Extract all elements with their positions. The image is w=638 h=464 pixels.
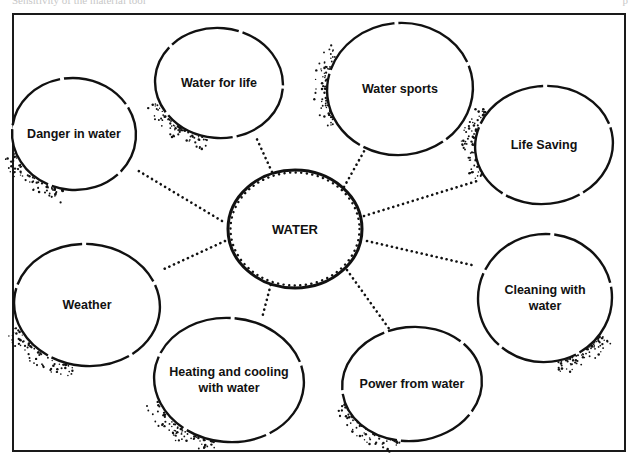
stipple-dot: [366, 442, 368, 444]
stipple-dot: [320, 107, 322, 109]
stipple-dot: [473, 133, 475, 135]
node-label: Weather: [62, 298, 111, 312]
node-life-saving: Life Saving: [469, 79, 619, 211]
stipple-dot: [324, 75, 326, 77]
node-label: Water sports: [362, 82, 438, 96]
node-label: Power from water: [360, 377, 465, 391]
water-mind-map: Water for lifeWater sportsDanger in wate…: [0, 0, 638, 464]
stipple-dot: [175, 432, 177, 434]
stipple-dot: [22, 334, 23, 335]
stipple-dot: [185, 139, 187, 141]
stipple-dot: [324, 77, 326, 79]
stipple-dot: [382, 446, 384, 448]
stipple-dot: [29, 357, 31, 359]
stipple-dot: [47, 357, 49, 359]
stipple-dot: [570, 364, 572, 366]
stipple-dot: [474, 123, 476, 125]
stipple-dot: [470, 152, 472, 154]
stipple-dot: [152, 413, 154, 415]
stipple-dot: [471, 171, 474, 174]
stipple-dot: [193, 438, 195, 440]
stipple-dot: [323, 51, 325, 53]
stipple-dot: [162, 114, 164, 116]
stipple-dot: [472, 144, 474, 146]
stipple-dot: [321, 98, 323, 100]
stipple-dot: [5, 158, 7, 160]
stipple-dot: [480, 117, 482, 119]
stipple-dot: [54, 363, 56, 365]
stipple-dot: [329, 115, 331, 117]
stipple-dot: [14, 345, 16, 347]
stipple-dot: [463, 147, 465, 149]
stipple-dot: [321, 70, 322, 71]
node-label: water: [528, 299, 562, 313]
stipple-dot: [10, 160, 12, 162]
stipple-dot: [163, 115, 166, 118]
stipple-dot: [561, 364, 563, 366]
stipple-dot: [155, 103, 157, 105]
stipple-dot: [147, 107, 149, 109]
stipple-dot: [33, 348, 35, 350]
connector-weather: [162, 241, 225, 270]
stipple-dot: [54, 193, 57, 196]
stipple-dot: [396, 444, 398, 446]
stipple-dot: [356, 435, 357, 436]
stipple-dot: [24, 179, 26, 181]
stipple-dot: [49, 193, 51, 195]
stipple-dot: [146, 405, 148, 407]
stipple-dot: [60, 373, 62, 375]
stipple-dot: [181, 431, 182, 432]
stipple-dot: [17, 168, 19, 170]
stipple-dot: [177, 426, 179, 428]
stipple-dot: [469, 159, 471, 161]
stipple-dot: [31, 181, 33, 183]
stipple-dot: [203, 447, 205, 449]
stipple-dot: [206, 445, 208, 447]
stipple-dot: [164, 416, 166, 418]
stipple-dot: [346, 424, 348, 426]
node-label: Life Saving: [511, 138, 578, 152]
stipple-dot: [577, 354, 579, 356]
stipple-dot: [347, 414, 349, 416]
stipple-dot: [468, 135, 470, 137]
stipple-dot: [24, 349, 26, 351]
node-outline: [472, 227, 619, 368]
stipple-dot: [173, 135, 175, 137]
stipple-dot: [201, 148, 204, 151]
stipple-dot: [187, 433, 189, 435]
stipple-dot: [599, 341, 601, 343]
stipple-dot: [330, 53, 332, 55]
stipple-dot: [350, 422, 352, 424]
stipple-dot: [168, 118, 170, 120]
stipple-dot: [169, 423, 171, 425]
stipple-dot: [162, 119, 164, 121]
stipple-dot: [315, 88, 317, 90]
stipple-dot: [49, 369, 51, 371]
stipple-dot: [558, 368, 561, 371]
stipple-dot: [56, 371, 58, 373]
stipple-dot: [351, 430, 354, 433]
stipple-dot: [15, 332, 17, 334]
stipple-dot: [589, 351, 591, 353]
stipple-dot: [14, 176, 15, 177]
stipple-dot: [395, 441, 397, 443]
stipple-dot: [147, 410, 149, 412]
stipple-dot: [13, 154, 14, 155]
stipple-dot: [325, 103, 327, 105]
stipple-dot: [171, 136, 173, 138]
stipple-dot: [14, 167, 16, 169]
stipple-dot: [8, 335, 10, 337]
stipple-dot: [182, 430, 184, 432]
stipple-dot: [46, 189, 48, 191]
stipple-dot: [369, 437, 371, 439]
stipple-dot: [24, 345, 26, 347]
stipple-dot: [332, 56, 334, 58]
stipple-dot: [181, 433, 183, 435]
stipple-dot: [471, 130, 473, 132]
node-weather: Weather: [9, 238, 165, 372]
stipple-dot: [560, 362, 563, 365]
stipple-dot: [473, 124, 476, 127]
stipple-dot: [464, 127, 466, 129]
stipple-dot: [569, 371, 571, 373]
node-outline: [149, 312, 309, 449]
